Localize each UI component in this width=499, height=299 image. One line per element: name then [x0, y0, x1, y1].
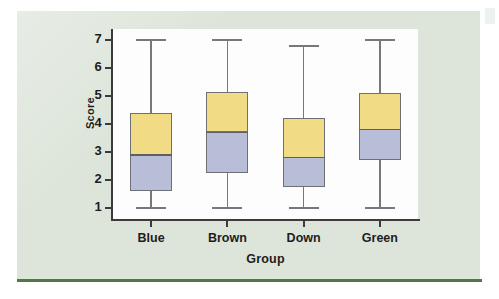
box-upper-quartile — [206, 92, 248, 133]
y-axis-tick-label: 3 — [80, 143, 102, 158]
y-axis-tick — [105, 123, 111, 125]
x-axis-tick — [226, 221, 228, 227]
box-lower-quartile — [130, 155, 172, 191]
x-axis-tick — [150, 221, 152, 227]
lower-whisker-line — [379, 160, 380, 208]
x-axis-tick-label-green: Green — [340, 231, 420, 245]
y-axis-title: Score — [84, 97, 96, 129]
box-upper-quartile — [359, 93, 401, 129]
lower-whisker-cap — [289, 207, 319, 209]
median-line — [206, 132, 248, 134]
x-axis-line — [111, 219, 420, 221]
box-lower-quartile — [283, 158, 325, 187]
lower-whisker-cap — [136, 207, 166, 209]
y-axis-tick-label: 7 — [80, 31, 102, 46]
median-line — [283, 157, 325, 159]
box-lower-quartile — [206, 132, 248, 173]
lower-whisker-line — [303, 187, 304, 208]
lower-whisker-line — [227, 173, 228, 208]
median-line — [359, 129, 401, 131]
upper-whisker-cap — [212, 39, 242, 41]
y-axis-tick — [105, 39, 111, 41]
figure-container: 1234567 BlueBrownDownGreen Score Group — [0, 0, 499, 299]
y-axis-tick — [105, 179, 111, 181]
upper-whisker-cap — [365, 39, 395, 41]
y-axis-tick — [105, 207, 111, 209]
upper-whisker-line — [227, 40, 228, 92]
x-axis-tick — [303, 221, 305, 227]
median-line — [130, 154, 172, 156]
x-axis-tick-label-brown: Brown — [187, 231, 267, 245]
y-axis-tick-label: 1 — [80, 199, 102, 214]
lower-whisker-cap — [212, 207, 242, 209]
y-axis-tick — [105, 95, 111, 97]
box-upper-quartile — [130, 113, 172, 155]
box-lower-quartile — [359, 130, 401, 161]
x-axis-title: Group — [113, 252, 418, 266]
upper-whisker-line — [303, 46, 304, 119]
y-axis-tick-label: 6 — [80, 59, 102, 74]
upper-whisker-line — [379, 40, 380, 93]
y-axis-tick — [105, 151, 111, 153]
upper-whisker-line — [150, 40, 151, 113]
y-axis-tick — [105, 67, 111, 69]
y-axis-tick-labels: 1234567 — [78, 0, 102, 299]
scan-artifact — [485, 8, 495, 24]
x-axis-tick-label-blue: Blue — [111, 231, 191, 245]
x-axis-tick-label-down: Down — [264, 231, 344, 245]
lower-whisker-line — [150, 191, 151, 208]
y-axis-line — [111, 29, 113, 221]
lower-whisker-cap — [365, 207, 395, 209]
upper-whisker-cap — [289, 45, 319, 47]
x-axis-tick — [379, 221, 381, 227]
box-upper-quartile — [283, 118, 325, 157]
upper-whisker-cap — [136, 39, 166, 41]
y-axis-tick-label: 2 — [80, 171, 102, 186]
